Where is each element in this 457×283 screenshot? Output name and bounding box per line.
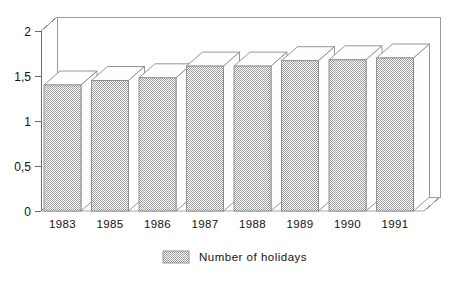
bar-1985 bbox=[92, 67, 145, 212]
bar-1991 bbox=[377, 44, 430, 211]
x-axis-label-1990: 1990 bbox=[334, 218, 361, 230]
bar-1990 bbox=[329, 46, 382, 211]
x-axis-labels: 19831985198619871988198919901991 bbox=[49, 218, 409, 230]
legend-label-number-of-holidays: Number of holidays bbox=[199, 251, 307, 263]
x-axis-label-1986: 1986 bbox=[144, 218, 171, 230]
bar-front-face-1986 bbox=[139, 78, 176, 211]
bar-1987 bbox=[187, 52, 240, 211]
y-axis-label-1: 1 bbox=[24, 115, 31, 129]
x-axis-label-1988: 1988 bbox=[239, 218, 266, 230]
bar-1983 bbox=[44, 71, 97, 211]
y-axis-label-0: 0 bbox=[24, 205, 31, 219]
y-axis-label-0-5: 0,5 bbox=[14, 160, 31, 174]
x-axis-label-1985: 1985 bbox=[96, 218, 123, 230]
bar-front-face-1988 bbox=[234, 66, 271, 211]
bar-front-face-1991 bbox=[377, 58, 414, 211]
depth-edge-top-left bbox=[41, 17, 57, 31]
bar-front-face-1983 bbox=[44, 85, 81, 211]
legend: Number of holidays bbox=[163, 251, 307, 263]
y-axis: 2 1,5 1 0,5 0 bbox=[14, 25, 41, 219]
bar-1986 bbox=[139, 64, 192, 211]
bar-1989 bbox=[282, 47, 335, 211]
bar-front-face-1990 bbox=[329, 60, 366, 211]
x-axis-label-1987: 1987 bbox=[191, 218, 218, 230]
x-axis-label-1989: 1989 bbox=[286, 218, 313, 230]
bar-front-face-1985 bbox=[92, 81, 129, 212]
chart-container: 2 1,5 1 0,5 0 19831985198619871988198919… bbox=[0, 0, 457, 283]
bar-side-face-1991 bbox=[414, 44, 430, 211]
bar-front-face-1989 bbox=[282, 61, 319, 211]
y-axis-label-2: 2 bbox=[24, 25, 31, 39]
y-axis-label-1-5: 1,5 bbox=[14, 70, 31, 84]
bar-front-face-1987 bbox=[187, 66, 224, 211]
bar-1988 bbox=[234, 52, 287, 211]
bars-group bbox=[44, 44, 430, 211]
x-axis-label-1983: 1983 bbox=[49, 218, 76, 230]
x-axis-label-1991: 1991 bbox=[381, 218, 408, 230]
bar-chart-3d: 2 1,5 1 0,5 0 19831985198619871988198919… bbox=[0, 0, 457, 283]
legend-swatch-number-of-holidays bbox=[163, 251, 189, 263]
